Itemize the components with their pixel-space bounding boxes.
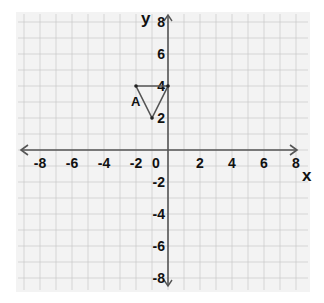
triangle-label: A (131, 94, 141, 109)
x-tick-label: 4 (228, 155, 236, 171)
x-tick-label: 6 (260, 155, 268, 171)
y-tick-label: 6 (157, 46, 165, 62)
x-tick-label: -4 (98, 155, 111, 171)
x-tick-label: 8 (292, 155, 300, 171)
x-tick-label: -6 (66, 155, 79, 171)
y-axis-label: y (141, 9, 151, 28)
y-tick-label: 8 (157, 14, 165, 30)
y-tick-label: -6 (153, 238, 166, 254)
y-tick-label: -8 (153, 270, 166, 286)
y-tick-label: -4 (153, 206, 166, 222)
x-tick-label: 2 (196, 155, 204, 171)
y-tick-label: -2 (153, 174, 166, 190)
y-tick-label: 2 (157, 110, 165, 126)
x-tick-label: -8 (34, 155, 47, 171)
x-tick-label: 0 (152, 155, 160, 171)
x-axis-label: x (302, 166, 312, 185)
vertex-point (150, 116, 154, 120)
coordinate-plane: -8-6-4-202468 8642-2-4-6-8 x y A (0, 0, 324, 303)
vertex-point (166, 84, 170, 88)
vertex-point (134, 84, 138, 88)
x-tick-label: -2 (130, 155, 143, 171)
